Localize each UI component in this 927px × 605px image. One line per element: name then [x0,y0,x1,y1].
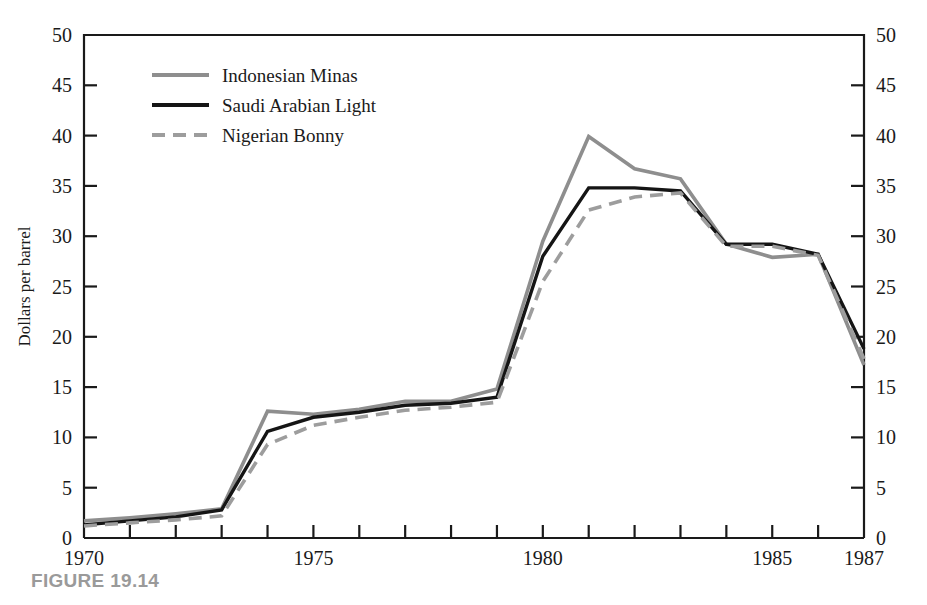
x-tick-label: 1975 [293,547,333,569]
y-tick-label-right: 0 [876,527,886,549]
legend-label: Saudi Arabian Light [222,95,377,116]
y-tick-label-right: 20 [876,326,896,348]
y-axis-right-labels: 05101520253035404550 [876,24,896,549]
y-tick-label: 45 [52,74,72,96]
y-tick-label-right: 25 [876,276,896,298]
y-tick-label: 0 [62,527,72,549]
x-axis-labels: 19701975198019851987 [64,547,884,569]
y-axis-title: Dollars per barrel [15,226,34,346]
plot-frame [84,35,864,538]
y-tick-label-right: 40 [876,125,896,147]
line-chart: 05101520253035404550 0510152025303540455… [0,0,927,605]
series-line [84,188,864,525]
data-series-group [84,137,864,526]
legend-label: Nigerian Bonny [222,125,344,146]
y-tick-label-right: 5 [876,477,886,499]
figure-caption: FIGURE 19.14 [31,570,159,592]
chart-legend: Indonesian MinasSaudi Arabian LightNiger… [152,65,377,146]
y-tick-label-right: 35 [876,175,896,197]
y-tick-label: 30 [52,225,72,247]
x-tick-label: 1985 [752,547,792,569]
series-line [84,137,864,521]
y-tick-label: 20 [52,326,72,348]
y-axis-left-labels: 05101520253035404550 [52,24,72,549]
y-tick-label-right: 15 [876,376,896,398]
legend-label: Indonesian Minas [222,65,358,86]
y-tick-label-right: 45 [876,74,896,96]
y-tick-label: 5 [62,477,72,499]
figure-container: 05101520253035404550 0510152025303540455… [0,0,927,605]
y-axis-left-ticks [84,85,97,487]
x-tick-label: 1980 [523,547,563,569]
y-tick-label-right: 30 [876,225,896,247]
y-tick-label-right: 10 [876,426,896,448]
x-tick-label: 1987 [844,547,884,569]
y-tick-label-right: 50 [876,24,896,46]
y-tick-label: 15 [52,376,72,398]
x-axis-ticks [130,525,818,538]
y-tick-label: 50 [52,24,72,46]
x-tick-label: 1970 [64,547,104,569]
y-tick-label: 35 [52,175,72,197]
y-tick-label: 10 [52,426,72,448]
y-tick-label: 25 [52,276,72,298]
y-axis-title-text: Dollars per barrel [15,226,34,346]
y-tick-label: 40 [52,125,72,147]
y-axis-right-ticks [851,85,864,487]
